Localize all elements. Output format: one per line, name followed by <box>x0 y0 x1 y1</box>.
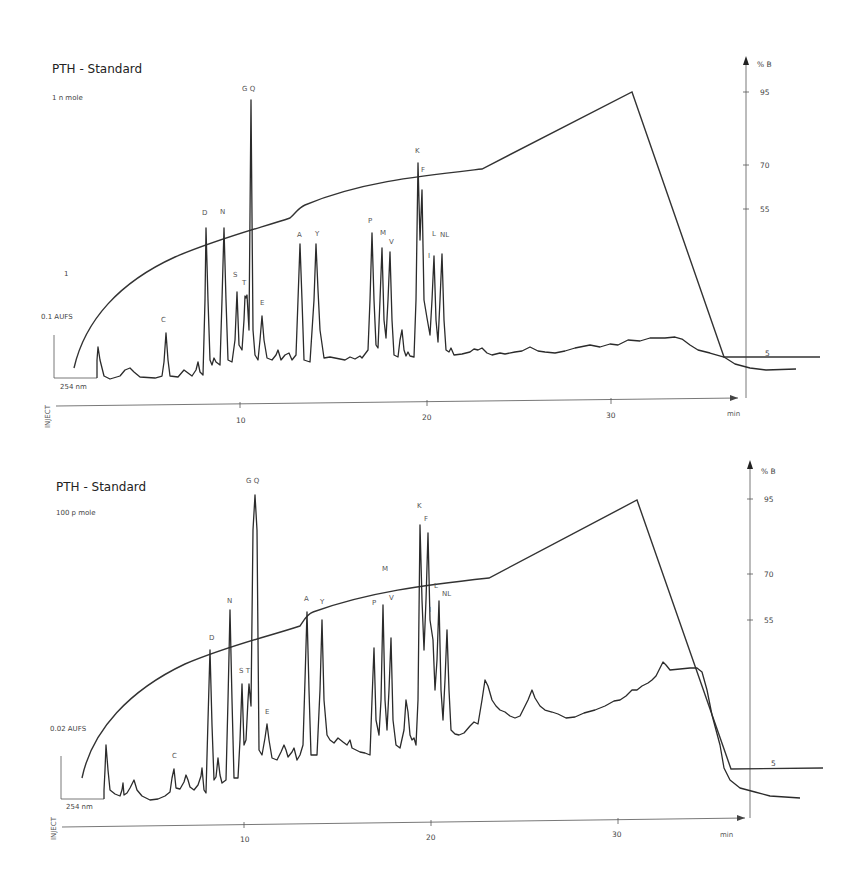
peak-label-m: M <box>380 229 386 237</box>
gradient-curve <box>82 500 823 778</box>
peak-label-gq: G Q <box>242 85 256 93</box>
side-mark: 1 <box>64 270 68 278</box>
x-tick-20: 20 <box>426 833 436 842</box>
peak-label-c: C <box>172 752 177 760</box>
y2-axis-arrow-icon <box>747 460 753 469</box>
panel-top: PTH - Standard 1 n mole 1 0.1 AUFS 254 n… <box>41 56 820 428</box>
y2-tick-95: 95 <box>764 495 774 504</box>
peak-label-s: S <box>233 271 238 279</box>
y2-axis-unit: % B <box>761 467 776 476</box>
x-axis <box>62 818 745 827</box>
peak-label-f: F <box>424 515 428 523</box>
scale-bracket <box>54 335 97 378</box>
peak-label-y: Y <box>319 598 325 606</box>
peak-label-nl: NL <box>440 231 449 239</box>
chromatogram-figure: PTH - Standard 1 n mole 1 0.1 AUFS 254 n… <box>0 0 864 883</box>
peak-label-d: D <box>209 634 214 642</box>
x-tick-30: 30 <box>606 411 616 420</box>
x-tick-10: 10 <box>240 835 250 844</box>
peak-label-c: C <box>161 316 166 324</box>
x-axis-unit: min <box>727 410 740 418</box>
x-axis <box>56 398 738 406</box>
peak-label-n: N <box>220 208 225 216</box>
x-axis-unit: min <box>720 831 733 839</box>
peak-label-v: V <box>389 594 394 602</box>
peak-label-a: A <box>297 231 302 239</box>
peak-labels: C D N S T G Q E A Y P M V K F I L NL <box>172 477 451 760</box>
y2-axis-unit: % B <box>757 60 772 69</box>
y2-tick-70: 70 <box>764 570 774 579</box>
inject-label: INJECT <box>44 404 52 428</box>
peak-label-v: V <box>389 238 394 246</box>
gradient-curve <box>74 92 820 368</box>
peak-label-m: M <box>382 565 388 573</box>
peak-label-l: L <box>432 230 436 238</box>
peak-label-e: E <box>260 299 264 307</box>
gradient-end-label: 5 <box>771 759 776 768</box>
x-axis-arrow-icon <box>730 395 738 401</box>
peak-label-e: E <box>265 708 269 716</box>
peak-label-p: P <box>372 599 376 607</box>
panel-subtitle: 100 p mole <box>56 509 96 517</box>
x-tick-30: 30 <box>612 830 622 839</box>
y2-tick-55: 55 <box>760 205 770 214</box>
peak-label-f: F <box>421 166 425 174</box>
x-axis-ticks <box>244 818 618 828</box>
peak-label-p: P <box>368 217 372 225</box>
peak-label-gq: G Q <box>246 477 260 485</box>
peak-label-a: A <box>304 595 309 603</box>
y2-tick-55: 55 <box>764 616 774 625</box>
peak-label-y: Y <box>314 230 320 238</box>
y2-tick-95: 95 <box>760 88 770 97</box>
wavelength-label: 254 nm <box>66 803 93 811</box>
peak-label-n: N <box>227 597 232 605</box>
x-tick-20: 20 <box>422 413 432 422</box>
peak-label-k: K <box>417 502 422 510</box>
inject-label: INJECT <box>50 816 58 840</box>
peak-label-i: I <box>428 252 430 260</box>
y2-tick-70: 70 <box>760 161 770 170</box>
peak-label-d: D <box>202 209 207 217</box>
panel-title: PTH - Standard <box>52 62 142 76</box>
wavelength-label: 254 nm <box>60 383 87 391</box>
x-axis-arrow-icon <box>737 815 745 821</box>
chromatogram-trace <box>97 100 796 379</box>
panel-bottom: PTH - Standard 100 p mole 0.02 AUFS 254 … <box>50 460 823 844</box>
chromatogram-trace <box>104 495 800 800</box>
peak-label-i: I <box>429 606 431 614</box>
peak-label-nl: NL <box>442 590 451 598</box>
y2-axis-arrow-icon <box>743 56 749 65</box>
peak-label-k: K <box>415 147 420 155</box>
x-tick-10: 10 <box>236 416 246 425</box>
peak-label-st: S T <box>239 667 251 675</box>
aufs-label: 0.1 AUFS <box>41 313 73 321</box>
peak-label-t: T <box>241 279 247 287</box>
peak-label-l: L <box>434 582 438 590</box>
aufs-label: 0.02 AUFS <box>50 725 87 733</box>
panel-subtitle: 1 n mole <box>52 94 83 102</box>
panel-title: PTH - Standard <box>56 480 146 494</box>
